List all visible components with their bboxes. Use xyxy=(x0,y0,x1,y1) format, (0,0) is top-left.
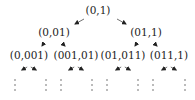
edge-leaf-3-right xyxy=(171,67,176,70)
ellipsis-dot xyxy=(60,89,61,90)
edge-leaf-1-left xyxy=(69,67,74,70)
node-left-right: (001,01) xyxy=(54,49,99,61)
edge-root-right xyxy=(117,19,126,24)
node-right-left: (01,011) xyxy=(101,49,146,61)
ellipsis-dot xyxy=(91,79,92,80)
ellipsis-dot xyxy=(45,89,46,90)
ellipsis-dot xyxy=(91,89,92,90)
edge-leaf-2-left xyxy=(116,67,121,70)
ellipsis-dot xyxy=(137,79,138,80)
node-right-right: (011,1) xyxy=(150,49,188,61)
edge-leaf-0-right xyxy=(31,67,36,70)
edge-left-right xyxy=(62,43,65,46)
ellipsis-dot xyxy=(184,79,185,80)
ellipsis-dot xyxy=(14,89,15,90)
ellipsis-dot xyxy=(152,89,153,90)
edge-leaf-3-left xyxy=(162,67,167,70)
node-left-left: (0,001) xyxy=(10,49,48,61)
ellipsis-dot xyxy=(60,84,61,85)
edge-right-right xyxy=(154,43,157,46)
node-root: (0,1) xyxy=(86,4,111,16)
edge-leaf-2-right xyxy=(125,67,130,70)
ellipsis-dot xyxy=(152,84,153,85)
ellipsis-dot xyxy=(106,79,107,80)
ellipsis-dot xyxy=(60,79,61,80)
node-right: (01,1) xyxy=(130,26,162,38)
ellipsis-dot xyxy=(106,89,107,90)
ellipsis-dot xyxy=(184,84,185,85)
ellipsis-dot xyxy=(91,84,92,85)
node-left: (0,01) xyxy=(38,26,70,38)
edge-left-left xyxy=(42,43,44,46)
ellipsis-dot xyxy=(137,89,138,90)
edge-leaf-0-left xyxy=(22,67,27,70)
ellipsis-dot xyxy=(45,79,46,80)
ellipsis-dot xyxy=(184,89,185,90)
edge-leaf-1-right xyxy=(78,67,83,70)
edge-right-left xyxy=(135,43,137,46)
ellipsis-dot xyxy=(152,79,153,80)
ellipsis-dot xyxy=(14,79,15,80)
ellipsis-dot xyxy=(45,84,46,85)
edge-root-left xyxy=(75,19,84,24)
ellipsis-dot xyxy=(137,84,138,85)
binary-tree-diagram: (0,1) (0,01) (01,1) (0,001) (001,01) (01… xyxy=(0,0,195,100)
ellipsis-dot xyxy=(106,84,107,85)
ellipsis-dot xyxy=(14,84,15,85)
